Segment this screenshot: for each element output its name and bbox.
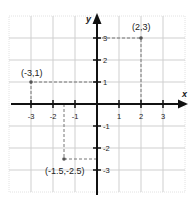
y-axis-label: y [85,14,92,24]
point-label: (-1.5,-2.5) [45,166,85,176]
x-tick-label: -2 [50,112,57,121]
y-tick-label: -2 [103,144,110,153]
x-tick-label: 2 [139,112,143,121]
point-label: (2,3) [132,22,151,32]
x-tick-label: -1 [72,112,79,121]
y-tick-label: -3 [103,166,110,175]
x-axis-label: x [181,89,188,99]
y-tick-label: -1 [103,122,110,131]
y-tick-label: 1 [103,78,107,87]
x-tick-label: -3 [28,112,35,121]
x-tick-label: 1 [117,112,121,121]
point-marker [139,36,143,40]
point-marker [62,157,66,161]
x-tick-label: 3 [161,112,165,121]
coordinate-plane: x y -3 -2 -1 1 2 3 3 2 1 -1 -2 -3 (2,3) … [0,0,196,205]
x-axis-arrow-icon [178,100,188,109]
point-marker [29,80,33,84]
y-axis-arrow-icon [93,13,102,24]
dashed-guides [31,38,141,159]
points [29,36,143,161]
y-tick-label: 2 [103,56,107,65]
y-tick-label: 3 [103,34,107,43]
point-label: (-3,1) [21,68,43,78]
x-axis [11,100,188,109]
